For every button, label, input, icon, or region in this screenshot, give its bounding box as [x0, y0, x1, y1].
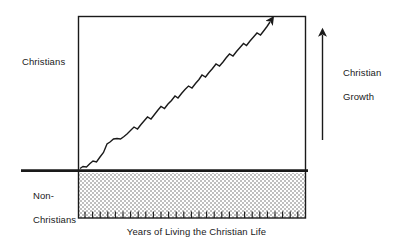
- christian-growth-label-line1: Christian: [343, 67, 381, 78]
- non-christians-label-line1: Non-: [33, 190, 54, 201]
- christian-growth-diagram: Christians Non- Christians Christian Gro…: [0, 0, 393, 248]
- christian-growth-label: Christian Growth: [332, 55, 381, 115]
- christians-region-label: Christians: [22, 56, 65, 68]
- non-christians-label-line2: Christians: [33, 214, 76, 225]
- christian-growth-label-line2: Growth: [343, 91, 374, 102]
- growth-trend-line: [80, 22, 270, 169]
- non-christian-shaded-region: [79, 173, 306, 218]
- x-axis-caption: Years of Living the Christian Life: [0, 226, 393, 238]
